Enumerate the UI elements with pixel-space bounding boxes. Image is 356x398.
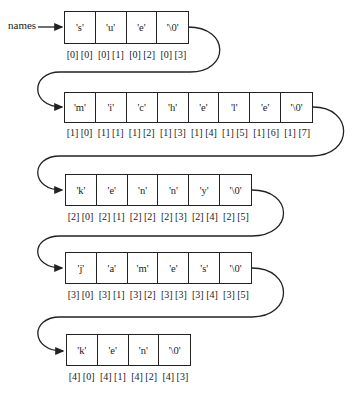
- index-label: [0] [3]: [158, 49, 189, 60]
- array-row-0: 's' 'u' 'e' '\0': [64, 11, 189, 44]
- index-label: [0] [0]: [64, 49, 95, 60]
- array-cell: '\0': [220, 175, 251, 205]
- index-label: [1] [7]: [282, 127, 313, 138]
- index-label: [3] [0]: [65, 289, 96, 300]
- array-cell: '\0': [159, 335, 190, 365]
- index-label: [2] [0]: [65, 211, 96, 222]
- array-cell: 'e': [98, 335, 129, 365]
- array-cell: 'e': [158, 253, 189, 283]
- array-cell: 'k': [66, 175, 97, 205]
- index-label: [1] [0]: [64, 127, 95, 138]
- array-cell: 'y': [189, 175, 220, 205]
- ragged-char-array-diagram: names 's' 'u' 'e' '\0' [0] [0] [0] [1] […: [0, 0, 356, 398]
- array-cell: 'n': [158, 175, 189, 205]
- index-label: [1] [5]: [219, 127, 250, 138]
- index-label: [3] [4]: [189, 289, 220, 300]
- array-cell: 'j': [66, 253, 97, 283]
- index-label: [1] [1]: [95, 127, 126, 138]
- index-label: [3] [1]: [96, 289, 127, 300]
- array-cell: 'm': [65, 93, 96, 122]
- array-cell: '\0': [220, 253, 251, 283]
- index-row-3: [3] [0] [3] [1] [3] [2] [3] [3] [3] [4] …: [65, 289, 252, 300]
- array-row-2: 'k' 'e' 'n' 'n' 'y' '\0': [65, 174, 252, 206]
- index-label: [1] [2]: [126, 127, 157, 138]
- index-row-2: [2] [0] [2] [1] [2] [2] [2] [3] [2] [4] …: [65, 211, 252, 222]
- variable-label: names: [8, 19, 36, 31]
- array-cell: 'c': [127, 93, 158, 122]
- index-label: [1] [4]: [188, 127, 219, 138]
- index-label: [2] [3]: [158, 211, 189, 222]
- array-cell: '\0': [157, 12, 188, 43]
- array-cell: 'l': [219, 93, 250, 122]
- index-label: [3] [3]: [158, 289, 189, 300]
- index-label: [2] [4]: [189, 211, 220, 222]
- array-cell: 'h': [158, 93, 189, 122]
- array-cell: 'i': [96, 93, 127, 122]
- array-row-3: 'j' 'a' 'm' 'e' 's' '\0': [65, 252, 252, 284]
- index-label: [2] [1]: [96, 211, 127, 222]
- index-label: [1] [3]: [157, 127, 188, 138]
- index-label: [0] [1]: [95, 49, 126, 60]
- index-label: [2] [2]: [127, 211, 158, 222]
- array-cell: '\0': [281, 93, 312, 122]
- index-row-0: [0] [0] [0] [1] [0] [2] [0] [3]: [64, 49, 189, 60]
- index-label: [4] [0]: [66, 371, 97, 382]
- array-row-4: 'k' 'e' 'n' '\0': [66, 334, 191, 366]
- array-cell: 's': [65, 12, 96, 43]
- index-label: [4] [2]: [129, 371, 160, 382]
- array-cell: 'n': [128, 175, 159, 205]
- array-cell: 'k': [67, 335, 98, 365]
- array-cell: 'e': [250, 93, 281, 122]
- index-row-4: [4] [0] [4] [1] [4] [2] [4] [3]: [66, 371, 191, 382]
- index-label: [2] [5]: [220, 211, 251, 222]
- array-cell: 'a': [97, 253, 128, 283]
- array-cell: 'm': [128, 253, 159, 283]
- index-label: [3] [2]: [127, 289, 158, 300]
- array-cell: 'e': [127, 12, 158, 43]
- array-cell: 'n': [129, 335, 160, 365]
- array-cell: 'u': [96, 12, 127, 43]
- index-row-1: [1] [0] [1] [1] [1] [2] [1] [3] [1] [4] …: [64, 127, 313, 138]
- index-label: [4] [1]: [97, 371, 128, 382]
- array-cell: 'e': [97, 175, 128, 205]
- array-cell: 's': [189, 253, 220, 283]
- index-label: [3] [5]: [220, 289, 251, 300]
- index-label: [0] [2]: [127, 49, 158, 60]
- index-label: [1] [6]: [251, 127, 282, 138]
- array-row-1: 'm' 'i' 'c' 'h' 'e' 'l' 'e' '\0': [64, 92, 313, 123]
- index-label: [4] [3]: [160, 371, 191, 382]
- array-cell: 'e': [189, 93, 220, 122]
